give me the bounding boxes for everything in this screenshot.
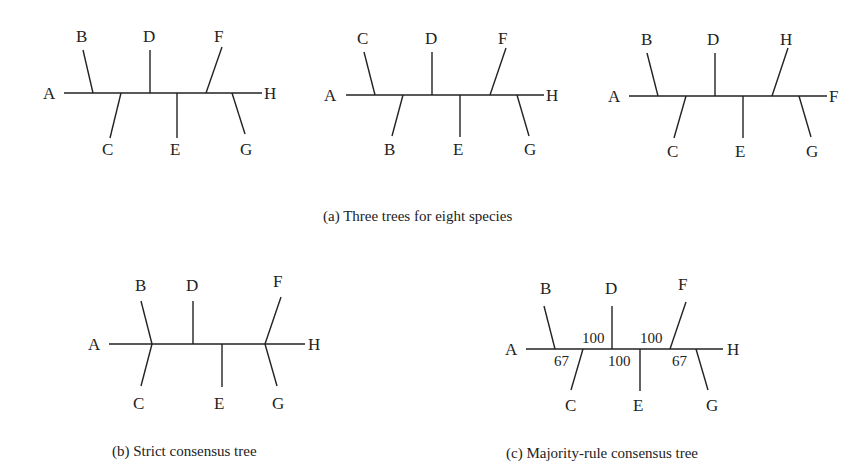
majority-top-2: D: [605, 279, 617, 298]
tree-1: A H B D F C E G: [43, 27, 276, 159]
tree2-top-1: C: [357, 29, 368, 48]
consensus-tree-figure: A H B D F C E G A H C D F B E G A F B: [0, 0, 852, 476]
support-value-2: 100: [582, 330, 605, 346]
support-value-4: 100: [640, 330, 663, 346]
tree1-bottom-1: C: [102, 140, 113, 159]
tree1-bottom-3: G: [240, 140, 252, 159]
majority-rule-consensus-tree: A H B D F C E G 67 100 100 100 67: [505, 275, 739, 415]
strict-top-3: F: [273, 272, 282, 291]
tree-3: A F B D H C E G: [608, 30, 838, 161]
majority-top-1: B: [540, 279, 551, 298]
tree3-top-3: H: [780, 30, 792, 49]
majority-top-3: F: [678, 275, 687, 294]
caption-b: (b) Strict consensus tree: [112, 443, 257, 460]
majority-bottom-2: E: [633, 396, 643, 415]
majority-right: H: [727, 340, 739, 359]
tree3-bottom-2: E: [735, 142, 745, 161]
support-value-5: 67: [672, 353, 688, 369]
strict-consensus-tree: A H B D F C E G: [88, 272, 320, 413]
strict-bottom-2: E: [214, 394, 224, 413]
tree1-top-2: D: [143, 27, 155, 46]
tree3-bottom-3: G: [806, 142, 818, 161]
strict-bottom-1: C: [133, 394, 144, 413]
tree1-right: H: [264, 84, 276, 103]
support-value-3: 100: [608, 353, 631, 369]
tree2-top-2: D: [425, 29, 437, 48]
strict-top-1: B: [135, 276, 146, 295]
strict-top-2: D: [186, 276, 198, 295]
majority-bottom-3: G: [706, 396, 718, 415]
tree3-top-2: D: [707, 30, 719, 49]
tree-2: A H C D F B E G: [324, 29, 558, 159]
tree1-bottom-2: E: [170, 140, 180, 159]
strict-right: H: [308, 335, 320, 354]
tree2-right: H: [546, 86, 558, 105]
tree3-top-1: B: [641, 30, 652, 49]
tree1-top-1: B: [76, 27, 87, 46]
tree2-top-3: F: [498, 29, 507, 48]
tree2-bottom-2: E: [453, 140, 463, 159]
tree3-right: F: [829, 87, 838, 106]
tree1-top-3: F: [214, 27, 223, 46]
majority-left: A: [505, 340, 518, 359]
tree2-bottom-3: G: [524, 140, 536, 159]
tree3-left: A: [608, 87, 621, 106]
strict-bottom-3: G: [272, 394, 284, 413]
majority-bottom-1: C: [565, 396, 576, 415]
strict-left: A: [88, 335, 101, 354]
tree1-left: A: [43, 84, 56, 103]
tree2-bottom-1: B: [384, 140, 395, 159]
tree2-left: A: [324, 86, 337, 105]
support-value-1: 67: [554, 353, 570, 369]
caption-a: (a) Three trees for eight species: [323, 208, 512, 225]
caption-c: (c) Majority-rule consensus tree: [506, 445, 698, 462]
tree3-bottom-1: C: [667, 142, 678, 161]
